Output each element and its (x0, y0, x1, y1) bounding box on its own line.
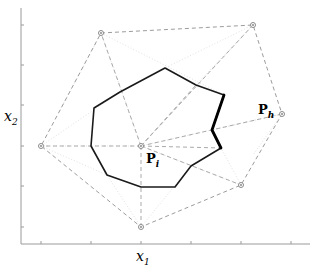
point-bottom-right (239, 183, 244, 188)
outer-hull (41, 25, 282, 227)
point-p-h (280, 112, 285, 117)
point-bottom (139, 225, 144, 230)
axes (21, 8, 310, 244)
point-top-right (251, 23, 256, 28)
x-axis-label: x1 (136, 248, 150, 267)
point-left (39, 144, 44, 149)
y-axis-label: x2 (4, 108, 18, 127)
voronoi-region-diagram: x2 x1 Pi Ph (0, 0, 318, 267)
point-top (99, 31, 104, 36)
label-p-i: Pi (146, 151, 160, 169)
highlighted-edge (212, 95, 224, 148)
sample-points (39, 23, 285, 230)
faint-construction-lines (41, 25, 282, 227)
point-p-i (139, 144, 144, 149)
dashed-spokes (41, 25, 282, 227)
